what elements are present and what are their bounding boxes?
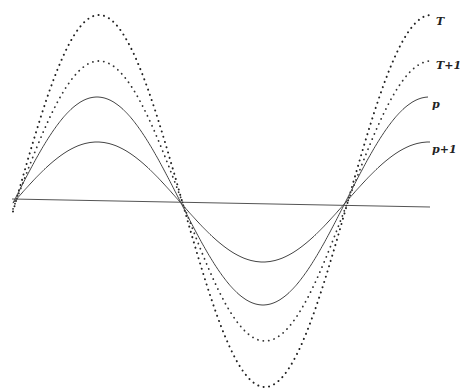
label-T-plus-1: T+1	[436, 59, 461, 72]
wave-figure: T T+1 p p+1	[0, 0, 462, 392]
baseline	[12, 199, 430, 207]
label-T: T	[436, 15, 445, 28]
curve-T	[13, 15, 432, 387]
label-p-plus-1: p+1	[432, 143, 457, 156]
curve-T-plus-1	[13, 61, 432, 341]
label-p: p	[432, 98, 440, 111]
curve-p	[13, 97, 428, 305]
